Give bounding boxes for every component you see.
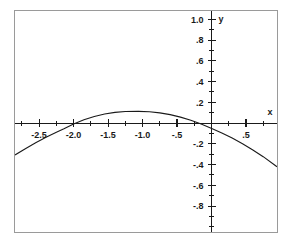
y-axis-label: y [219,14,224,24]
y-axis-tick-label: -.2 [193,139,204,149]
axis-name-group: yx [219,14,273,117]
x-axis-tick-label: -1.5 [100,130,116,140]
x-axis-tick-label: -1.0 [135,130,151,140]
plot-frame: -2.5-2.0-1.5-1.0-.5.51.0.8.6.4.2-.2-.4-.… [14,10,278,233]
y-axis-tick-label: .8 [196,35,204,45]
x-axis-tick-label: -.5 [172,130,183,140]
x-axis-tick-label: .5 [242,130,250,140]
y-axis-tick-label: -.6 [193,181,204,191]
y-axis-tick-label: -.8 [193,201,204,211]
x-axis-label: x [267,107,272,117]
function-plot: -2.5-2.0-1.5-1.0-.5.51.0.8.6.4.2-.2-.4-.… [15,11,277,232]
y-axis-tick-label: -.4 [193,160,204,170]
y-axis-tick-label: .2 [196,98,204,108]
y-axis-tick-label: .4 [196,77,204,87]
y-axis-tick-label: 1.0 [191,15,204,25]
axes-group [15,11,277,232]
y-axis-tick-label: .6 [196,56,204,66]
x-axis-tick-label: -2.0 [66,130,82,140]
tick-labels-group: -2.5-2.0-1.5-1.0-.5.51.0.8.6.4.2-.2-.4-.… [31,15,249,212]
